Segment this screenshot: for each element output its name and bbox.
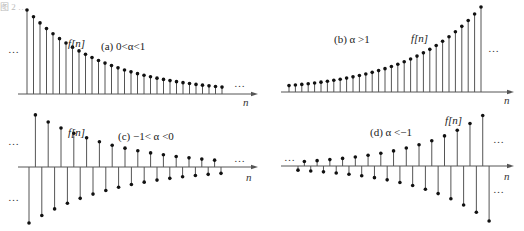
plot-a-ellipsis-right: … (234, 77, 245, 89)
plot-a-ellipsis-left: … (8, 43, 19, 55)
plot-b-ellipsis-right: … (488, 42, 499, 54)
plot-d-series-label: f[n] (445, 114, 462, 126)
plot-c-ellipsis-right: … (234, 152, 245, 164)
plot-a-series-label: f[n] (68, 37, 85, 49)
plot-d-ellipsis-left: … (284, 151, 295, 163)
plot-a-decaying (18, 8, 258, 96)
plot-d-ellipsis-right-bottom: … (493, 183, 504, 195)
plot-b-x-label: n (504, 94, 510, 106)
plot-a-title: (a) 0<α<1 (101, 40, 145, 52)
plot-c-ellipsis-left-bottom: … (8, 191, 19, 203)
plot-c-title: (c) −1< α <0 (118, 130, 174, 142)
plot-c-ellipsis-left-top: … (8, 135, 19, 147)
plot-a-x-label: n (243, 96, 249, 108)
plot-d-x-label: n (504, 170, 510, 182)
plot-b-growing (281, 5, 514, 94)
plot-d-ellipsis-right-top: … (493, 133, 504, 145)
plot-b-series-label: f[n] (411, 32, 428, 44)
plot-b-title: (b) α >1 (334, 33, 370, 45)
plot-c-series-label: f[n] (68, 126, 85, 138)
plot-c-x-label: n (246, 171, 252, 183)
plot-d-title: (d) α <−1 (370, 126, 412, 138)
